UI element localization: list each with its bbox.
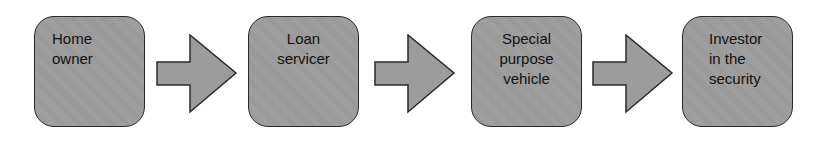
node-special-purpose-vehicle: Special purpose vehicle	[471, 16, 582, 127]
node-loan-servicer: Loan servicer	[248, 16, 359, 127]
right-arrow-icon	[592, 34, 674, 114]
right-arrow-icon	[374, 34, 456, 114]
right-arrow-icon	[156, 34, 238, 114]
node-label: Investor in the security	[709, 29, 762, 89]
node-label: Loan servicer	[249, 29, 358, 69]
node-label: Special purpose vehicle	[472, 29, 581, 89]
flow-diagram: Home owner Loan servicer Special purpose…	[0, 0, 827, 141]
node-home-owner: Home owner	[34, 16, 145, 127]
node-investor-in-the-security: Investor in the security	[682, 16, 793, 127]
node-label: Home owner	[52, 29, 93, 69]
